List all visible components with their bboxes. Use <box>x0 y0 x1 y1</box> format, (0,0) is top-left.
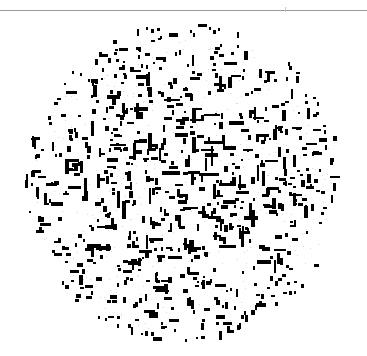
dash-mark <box>64 83 66 85</box>
dash-mark <box>131 163 133 165</box>
dash-mark <box>215 73 218 78</box>
dash-mark <box>80 287 84 289</box>
dash-mark <box>275 127 279 129</box>
dash-mark <box>221 205 228 209</box>
dash-mark <box>178 215 181 227</box>
dash-mark <box>270 256 273 259</box>
dash-mark <box>201 282 205 285</box>
dash-mark <box>325 145 327 150</box>
dash-mark <box>26 179 28 181</box>
dash-mark <box>319 169 321 172</box>
dash-mark <box>169 319 179 322</box>
dash-mark <box>205 158 207 171</box>
dash-mark <box>171 307 174 310</box>
dash-mark <box>88 79 90 82</box>
dash-mark <box>110 90 113 94</box>
dash-mark <box>95 59 98 65</box>
dash-mark <box>155 178 158 185</box>
dash-mark <box>61 114 66 117</box>
dash-mark <box>321 191 325 194</box>
dash-mark <box>265 71 268 73</box>
dash-mark <box>259 69 262 78</box>
dash-mark <box>170 249 173 251</box>
dash-mark <box>145 294 147 301</box>
dash-mark <box>289 291 292 295</box>
dash-mark <box>217 89 224 92</box>
dash-mark <box>135 319 139 321</box>
dash-mark <box>29 211 31 213</box>
dash-mark <box>132 204 134 206</box>
dash-mark <box>131 327 133 335</box>
dash-mark <box>112 300 117 303</box>
dash-mark <box>216 180 219 183</box>
dash-mark <box>86 296 92 299</box>
dash-mark <box>63 193 69 195</box>
dash-mark <box>167 105 174 108</box>
dash-mark <box>201 323 204 330</box>
dash-mark <box>142 216 145 223</box>
dash-mark <box>240 116 243 119</box>
dash-mark <box>139 298 142 303</box>
dash-mark <box>214 232 217 240</box>
dash-mark <box>272 198 276 209</box>
dash-mark <box>158 258 162 262</box>
dash-mark <box>299 136 302 140</box>
dash-mark <box>129 191 133 198</box>
dash-mark <box>230 213 237 216</box>
dash-mark <box>224 225 228 232</box>
dash-mark <box>286 265 289 268</box>
dash-mark <box>104 170 108 174</box>
dash-mark <box>314 179 318 183</box>
dash-mark <box>111 132 113 134</box>
dash-mark <box>101 153 105 155</box>
dash-mark <box>189 297 191 300</box>
dash-mark <box>296 76 299 83</box>
dash-mark <box>283 292 287 294</box>
dash-mark <box>253 198 255 201</box>
dash-mark <box>204 141 223 144</box>
dash-mark <box>122 103 125 113</box>
dash-mark <box>183 172 188 175</box>
dash-mark <box>65 285 69 289</box>
dash-mark <box>313 97 316 99</box>
dash-mark <box>321 212 324 215</box>
dash-mark <box>170 223 172 230</box>
dash-mark <box>211 211 213 216</box>
dash-mark <box>174 329 176 332</box>
dash-mark <box>110 139 113 141</box>
dash-mark <box>294 291 296 294</box>
dash-mark <box>106 107 108 113</box>
dash-mark <box>87 155 90 159</box>
dash-mark <box>145 331 148 336</box>
dash-mark <box>191 259 193 262</box>
dash-mark <box>223 200 236 204</box>
dash-mark <box>149 100 153 103</box>
dash-mark <box>112 188 115 191</box>
dash-mark <box>274 249 286 251</box>
dash-mark <box>157 28 160 31</box>
dash-mark <box>82 137 88 140</box>
dash-mark <box>139 250 152 253</box>
dash-mark <box>291 89 293 99</box>
dash-mark <box>243 149 253 151</box>
dash-mark <box>290 225 296 227</box>
dash-mark <box>142 257 144 259</box>
dash-mark <box>123 270 132 273</box>
dash-mark <box>82 196 85 201</box>
dash-mark <box>194 255 200 259</box>
dash-mark <box>71 280 74 282</box>
dash-mark <box>287 251 291 255</box>
dash-mark <box>288 183 292 185</box>
dash-mark <box>93 85 97 97</box>
dash-mark <box>239 323 241 325</box>
dash-mark <box>312 152 322 155</box>
dash-mark <box>154 248 157 251</box>
dash-mark <box>138 269 141 271</box>
dash-mark <box>171 161 174 165</box>
dash-mark <box>49 122 52 125</box>
dash-mark <box>122 65 125 70</box>
dash-mark <box>133 200 136 203</box>
dash-mark <box>196 108 202 110</box>
dash-mark <box>130 70 141 72</box>
dash-mark <box>155 187 161 190</box>
